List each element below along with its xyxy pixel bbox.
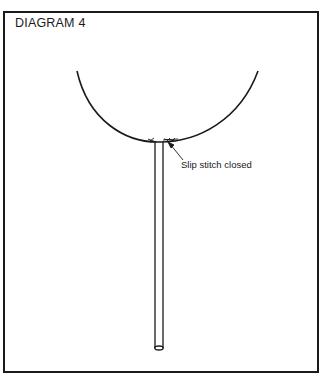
balloon-outline xyxy=(77,71,258,142)
annotation-slip-stitch: Slip stitch closed xyxy=(181,159,252,170)
stick xyxy=(155,142,163,350)
arrow-icon xyxy=(168,142,183,160)
